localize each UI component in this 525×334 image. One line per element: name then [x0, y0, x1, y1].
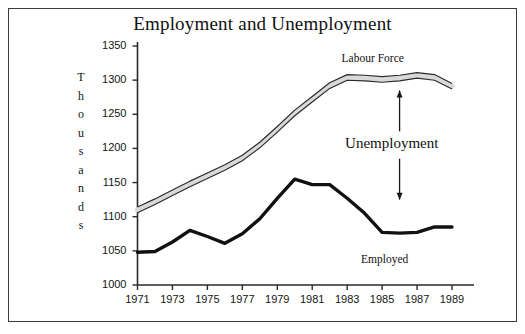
chart-figure: Employment and Unemployment T h o u s a … [0, 0, 525, 334]
data-series-group [138, 73, 453, 253]
unemployment-annotation: Unemployment [345, 135, 438, 152]
labour-force-annotation: Labour Force [342, 52, 404, 64]
plot-area [0, 0, 525, 334]
employed-annotation: Employed [361, 253, 408, 265]
